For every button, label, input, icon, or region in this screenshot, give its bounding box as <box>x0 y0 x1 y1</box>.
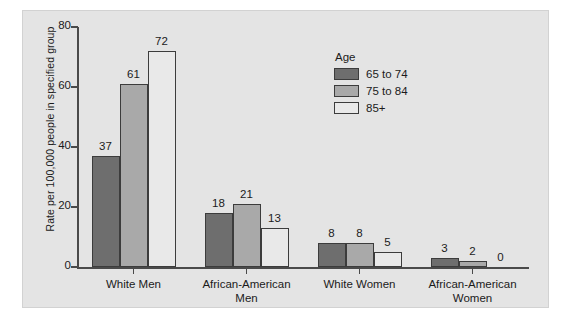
chart-panel: Rate per 100,000 people in specified gro… <box>22 10 549 308</box>
legend-item: 85+ <box>334 102 408 114</box>
bar <box>92 156 120 267</box>
legend-item: 75 to 84 <box>334 85 408 97</box>
plot-area: 376172182113885320 <box>23 11 550 309</box>
legend-swatch <box>334 68 359 80</box>
bar <box>120 84 148 267</box>
legend-item: 65 to 74 <box>334 68 408 80</box>
legend-swatch <box>334 102 359 114</box>
legend-rows: 65 to 7475 to 8485+ <box>334 68 408 114</box>
bar <box>374 252 402 267</box>
bar-value-label: 72 <box>142 35 182 47</box>
bar-value-label: 0 <box>481 251 521 263</box>
bar <box>205 213 233 267</box>
legend: Age 65 to 7475 to 8485+ <box>334 51 408 119</box>
bar <box>148 51 176 267</box>
bar-value-label: 5 <box>368 236 408 248</box>
bar-value-label: 13 <box>255 212 295 224</box>
legend-item-label: 85+ <box>366 102 386 114</box>
bar <box>318 243 346 267</box>
bar-value-label: 21 <box>227 188 267 200</box>
legend-title: Age <box>335 51 408 63</box>
figure: Rate per 100,000 people in specified gro… <box>0 0 570 325</box>
legend-swatch <box>334 85 359 97</box>
bar <box>261 228 289 267</box>
bar <box>431 258 459 267</box>
legend-item-label: 75 to 84 <box>366 85 408 97</box>
legend-item-label: 65 to 74 <box>366 68 408 80</box>
